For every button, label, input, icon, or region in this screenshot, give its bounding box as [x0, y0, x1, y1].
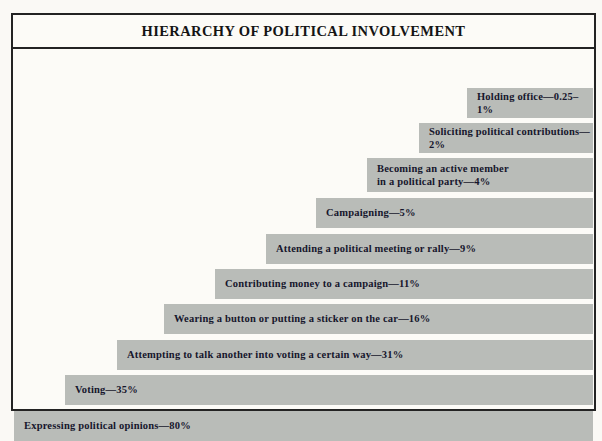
bar-talking-into-voting: Attempting to talk another into voting a… — [117, 340, 593, 370]
plot-area: Holding office—0.25–1% Soliciting politi… — [13, 50, 594, 410]
bar-label-contributing-money: Contributing money to a campaign—11% — [215, 277, 420, 290]
bar-label-talking-into-voting: Attempting to talk another into voting a… — [117, 348, 403, 361]
bar-label-voting: Voting—35% — [65, 383, 138, 396]
bar-label-campaigning: Campaigning—5% — [316, 206, 416, 219]
chart-frame: HIERARCHY OF POLITICAL INVOLVEMENT Holdi… — [11, 13, 596, 411]
bar-label-wearing-button: Wearing a button or putting a sticker on… — [164, 312, 430, 325]
bar-campaigning: Campaigning—5% — [316, 198, 593, 228]
chart-title: HIERARCHY OF POLITICAL INVOLVEMENT — [142, 23, 466, 40]
bar-label-expressing-opinions: Expressing political opinions—80% — [14, 419, 191, 432]
bar-label-active-party-member: Becoming an active member in a political… — [367, 162, 509, 188]
chart-title-band: HIERARCHY OF POLITICAL INVOLVEMENT — [13, 15, 594, 49]
bar-wearing-button: Wearing a button or putting a sticker on… — [164, 304, 593, 334]
bar-contributing-money: Contributing money to a campaign—11% — [215, 269, 593, 299]
bar-active-party-member: Becoming an active member in a political… — [367, 158, 593, 192]
bar-soliciting-contributions: Soliciting political contributions—2% — [419, 123, 593, 153]
bar-label-soliciting-contributions: Soliciting political contributions—2% — [419, 125, 593, 151]
bar-holding-office: Holding office—0.25–1% — [467, 88, 593, 118]
bar-expressing-opinions: Expressing political opinions—80% — [14, 411, 593, 441]
bar-label-attending-meeting: Attending a political meeting or rally—9… — [266, 242, 476, 255]
bar-attending-meeting: Attending a political meeting or rally—9… — [266, 234, 593, 264]
bar-label-holding-office: Holding office—0.25–1% — [467, 90, 593, 116]
bar-voting: Voting—35% — [65, 375, 593, 405]
